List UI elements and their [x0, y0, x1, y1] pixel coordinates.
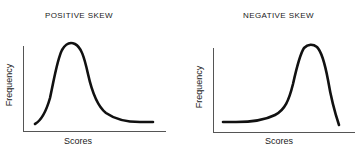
- negative-skew-panel: NEGATIVE SKEW Frequency Scores: [181, 0, 362, 155]
- negative-skew-xlabel: Scores: [265, 136, 293, 146]
- positive-skew-curve: [35, 43, 153, 124]
- positive-skew-plot: [0, 0, 181, 155]
- positive-skew-xlabel: Scores: [64, 136, 92, 146]
- negative-skew-curve: [223, 45, 339, 125]
- positive-skew-ylabel: Frequency: [4, 64, 14, 107]
- negative-skew-plot: [181, 0, 362, 155]
- positive-skew-panel: POSITIVE SKEW Frequency Scores: [0, 0, 181, 155]
- negative-skew-ylabel: Frequency: [194, 66, 204, 109]
